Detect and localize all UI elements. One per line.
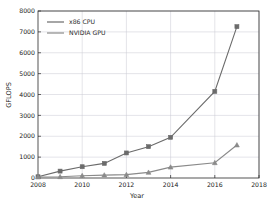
x-tick-label: 2008	[30, 181, 46, 188]
y-tick-label: 4000	[19, 91, 35, 98]
x-tick-label: 2016	[207, 181, 223, 188]
y-tick-label: 8000	[19, 7, 35, 14]
y-tick-label: 0	[31, 174, 35, 181]
data-point-marker	[147, 145, 151, 149]
x-tick-label: 2018	[251, 181, 267, 188]
y-tick-label: 7000	[19, 28, 35, 35]
y-tick-label: 1000	[19, 153, 35, 160]
data-point-marker	[102, 161, 106, 165]
y-tick-label: 2000	[19, 132, 35, 139]
x-tick-label: 2012	[119, 181, 135, 188]
data-point-marker	[124, 151, 128, 155]
data-point-marker	[169, 135, 173, 139]
y-tick-label: 3000	[19, 112, 35, 119]
legend-label-2: NVIDIA GPU	[69, 29, 106, 36]
gflops-line-chart: 200820102012201420162018 010002000300040…	[0, 0, 270, 204]
x-tick-label: 2010	[74, 181, 90, 188]
x-tick-label: 2014	[163, 181, 179, 188]
chart-container: 200820102012201420162018 010002000300040…	[0, 0, 270, 204]
y-axis-tick-labels: 010002000300040005000600070008000	[19, 7, 35, 181]
y-tick-label: 5000	[19, 70, 35, 77]
data-point-marker	[213, 89, 217, 93]
data-point-marker	[58, 169, 62, 173]
y-axis-title: GFLOPS	[5, 82, 13, 108]
data-point-marker	[80, 165, 84, 169]
x-axis-title: Year	[129, 192, 144, 200]
legend-label-1: x86 CPU	[69, 18, 95, 25]
y-tick-label: 6000	[19, 49, 35, 56]
data-point-marker	[235, 25, 239, 29]
